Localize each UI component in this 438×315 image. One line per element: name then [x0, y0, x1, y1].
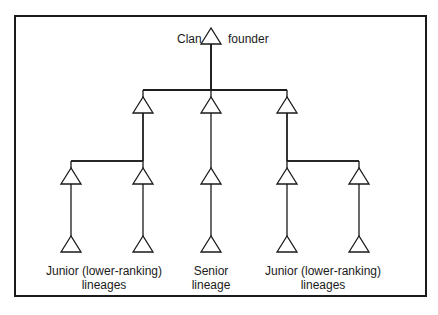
- male-triangle-icon: [61, 236, 81, 252]
- male-triangle-icon: [61, 168, 81, 184]
- male-triangle-icon: [201, 97, 221, 113]
- label-junior-left: Junior (lower-ranking) lineages: [29, 264, 179, 292]
- label-line: lineage: [181, 278, 241, 292]
- label-founder: founder: [228, 32, 269, 46]
- male-triangle-icon: [277, 97, 297, 113]
- male-triangle-icon: [201, 168, 221, 184]
- male-triangle-icon: [277, 168, 297, 184]
- male-triangle-icon: [349, 236, 369, 252]
- label-senior: Senior lineage: [181, 264, 241, 292]
- label-junior-right: Junior (lower-ranking) lineages: [248, 264, 398, 292]
- label-line: lineages: [29, 278, 179, 292]
- male-triangle-icon: [349, 168, 369, 184]
- label-line: lineages: [248, 278, 398, 292]
- male-triangle-icon: [133, 97, 153, 113]
- label-line: Senior: [181, 264, 241, 278]
- male-triangle-icon: [277, 236, 297, 252]
- male-triangle-icon: [201, 236, 221, 252]
- male-triangle-icon: [201, 28, 221, 44]
- label-clan: Clan: [177, 32, 202, 46]
- male-triangle-icon: [133, 236, 153, 252]
- label-line: Junior (lower-ranking): [248, 264, 398, 278]
- label-line: Junior (lower-ranking): [29, 264, 179, 278]
- male-triangle-icon: [133, 168, 153, 184]
